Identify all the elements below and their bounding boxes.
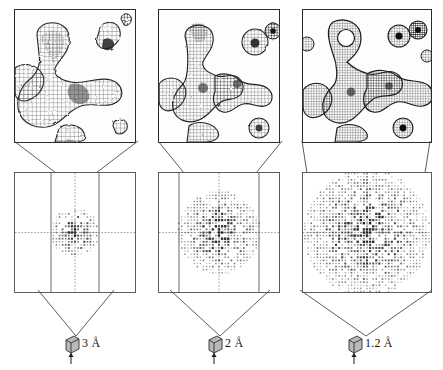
diffraction-detector-panel-2a: [158, 172, 280, 293]
density-map-1-2a: [303, 10, 431, 142]
diffraction-pattern-3a: [15, 173, 135, 292]
resolution-column-3a: 3 Å: [0, 0, 148, 370]
diffraction-pattern-2a: [159, 173, 279, 292]
beam-funnel-lower-2a: [154, 290, 286, 338]
crystallography-resolution-figure: 3 Å: [0, 0, 443, 370]
resolution-column-2a: 2 Å: [144, 0, 292, 370]
resolution-label: 2 Å: [225, 336, 243, 351]
density-map-2a: [159, 10, 279, 142]
beam-funnel-lower-1-2a: [298, 290, 434, 338]
crystal-row-3a: 3 Å: [0, 334, 148, 368]
electron-density-panel-2a: [158, 9, 280, 143]
diffraction-detector-panel-1-2a: [302, 172, 432, 293]
crystal-cube-icon: [346, 334, 364, 368]
crystal-row-2a: 2 Å: [144, 334, 292, 368]
crystal-cube-icon: [63, 334, 81, 368]
electron-density-panel-3a: [14, 9, 136, 143]
crystal-row-1-2a: 1.2 Å: [290, 334, 438, 368]
resolution-column-1-2a: 1.2 Å: [290, 0, 438, 370]
crystal-cube-icon: [206, 334, 224, 368]
resolution-label: 3 Å: [82, 336, 100, 351]
diffraction-pattern-1-2a: [303, 173, 431, 292]
density-map-3a: [15, 10, 135, 142]
resolution-label: 1.2 Å: [365, 336, 393, 351]
beam-funnel-upper-1-2a: [298, 140, 434, 174]
electron-density-panel-1-2a: [302, 9, 432, 143]
beam-funnel-upper-3a: [10, 140, 142, 174]
beam-funnel-upper-2a: [154, 140, 286, 174]
diffraction-detector-panel-3a: [14, 172, 136, 293]
beam-funnel-lower-3a: [10, 290, 142, 338]
